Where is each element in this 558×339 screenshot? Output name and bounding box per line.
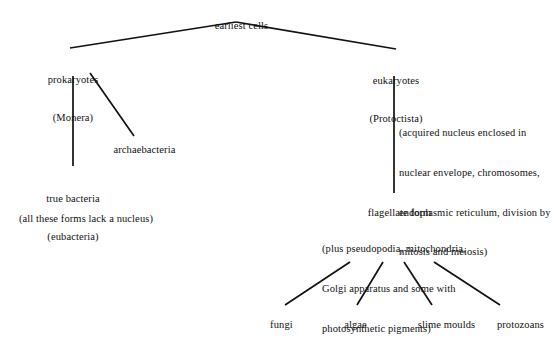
node-fungi: fungi xyxy=(259,306,293,339)
node-archaebacteria: archaebacteria xyxy=(103,131,176,169)
node-algae-label: algae xyxy=(344,319,367,330)
node-prokaryotes: prokaryotes (Monera) xyxy=(48,49,99,149)
node-eukaryotes-label-line1: eukaryotes xyxy=(369,75,422,88)
node-protozoans-label: protozoans xyxy=(497,319,544,330)
node-archaebacteria-label: archaebacteria xyxy=(113,144,175,155)
node-slime-moulds: slime moulds xyxy=(407,306,475,339)
node-prokaryotes-label-line1: prokaryotes xyxy=(48,74,99,87)
annotation-prokaryote-note-text: (all these forms lack a nucleus) xyxy=(19,213,153,224)
annotation-eukaryote-note-line1: (acquired nucleus enclosed in xyxy=(399,126,551,139)
annotation-prokaryote-note: (all these forms lack a nucleus) xyxy=(8,199,153,239)
node-protozoans: protozoans xyxy=(486,306,544,339)
node-prokaryotes-label-line2: (Monera) xyxy=(48,112,99,125)
annotation-eukaryote-note-line2: nuclear envelope, chromosomes, xyxy=(399,166,551,179)
annotation-flagellate-note-line2: Golgi apparatus and some with xyxy=(322,282,466,295)
node-slime-moulds-label: slime moulds xyxy=(418,319,476,330)
node-fungi-label: fungi xyxy=(270,319,293,330)
node-earliest-cells-label: earliest cells xyxy=(215,20,269,31)
node-earliest-cells: earliest cells xyxy=(204,7,269,45)
annotation-flagellate-note-line1: (plus pseudopodia, mitochondria, xyxy=(322,242,466,255)
node-algae: algae xyxy=(333,306,367,339)
